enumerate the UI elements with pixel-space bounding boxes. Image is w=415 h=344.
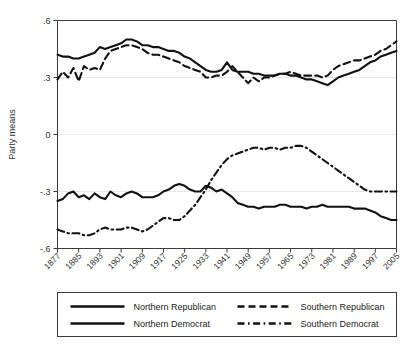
- y-tick-label: -.6: [40, 244, 51, 254]
- y-tick-label: 0: [45, 130, 50, 140]
- legend-label-northern-republican: Northern Republican: [134, 302, 217, 312]
- y-axis-title: Party means: [7, 109, 17, 160]
- legend-label-southern-republican: Southern Republican: [301, 302, 385, 312]
- y-tick-label: .3: [43, 73, 51, 83]
- y-tick-label: .6: [43, 16, 51, 26]
- party-means-line-chart: .6.30-.3-.6 1877188518931901190919171925…: [0, 0, 415, 344]
- y-tick-label: -.3: [40, 187, 51, 197]
- legend-label-northern-democrat: Northern Democrat: [134, 319, 211, 329]
- chart-figure: .6.30-.3-.6 1877188518931901190919171925…: [0, 0, 415, 344]
- legend-border: [58, 293, 397, 337]
- legend-label-southern-democrat: Southern Democrat: [301, 319, 380, 329]
- chart-legend: Northern RepublicanSouthern RepublicanNo…: [58, 293, 397, 337]
- y-axis-title-text: Party means: [7, 109, 17, 160]
